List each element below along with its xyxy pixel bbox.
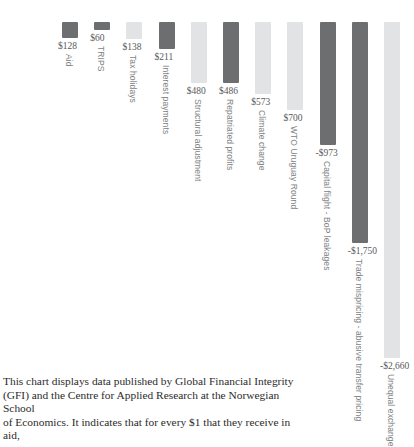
bar [126,22,142,39]
bar [320,22,336,145]
bar [255,22,271,94]
bar-category-label: Aid [64,54,74,67]
bar-category-label: Trade mispricing - abusive transfer pric… [354,259,364,421]
bar [352,22,368,243]
bar-value-label: $128 [58,41,100,51]
bar [223,22,239,83]
bar-category-label: Unequal exchange [386,374,396,447]
bar-category-label: Capital flight - BoP leakages [322,161,332,271]
bar [62,22,78,38]
bar-category-label: WTO Uruguay Round [289,126,299,209]
bar-value-label: -$2,660 [380,361,414,371]
bar-category-label: Repatriated profits [225,99,235,170]
bar-category-label: TRIPS [96,46,106,72]
bar-chart: $128Aid$60TRIPS$138Tax holidays$211Inter… [0,0,404,372]
caption-line: (GFI) and the Centre for Applied Researc… [3,389,303,416]
bar [159,22,175,49]
bar-category-label: Structural adjustment [193,99,203,181]
bar [287,22,303,110]
bar [384,22,400,358]
bar [94,22,110,30]
caption-line: This chart displays data published by Gl… [3,375,303,389]
bar-category-label: Tax holidays [128,55,138,103]
bar-category-label: Climate change [257,110,267,170]
caption-line: of Economics. It indicates that for ever… [3,416,303,443]
bar-category-label: Interest payments [161,65,171,134]
bar [191,22,207,83]
chart-caption: This chart displays data published by Gl… [3,375,303,443]
